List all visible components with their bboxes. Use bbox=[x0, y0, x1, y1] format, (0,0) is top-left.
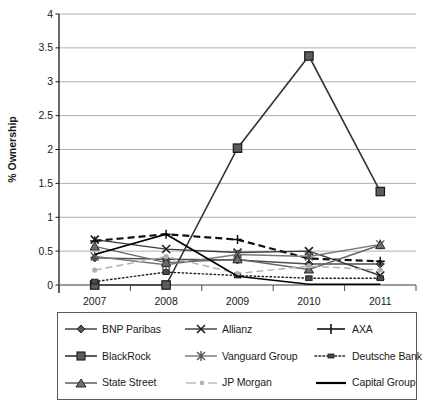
legend-item-vanguard-group[interactable]: Vanguard Group bbox=[184, 350, 314, 362]
y-axis-tick-label: 4 bbox=[47, 8, 53, 20]
legend-label: JP Morgan bbox=[222, 377, 272, 388]
line-chart: 00.511.522.533.5420072008200920102011% O… bbox=[0, 0, 421, 312]
legend-marker-dot-dashed-icon bbox=[184, 377, 218, 389]
legend-marker-triangle-icon bbox=[64, 377, 98, 389]
legend-item-allianz[interactable]: Allianz bbox=[184, 323, 314, 335]
legend-marker-x-icon bbox=[184, 323, 218, 335]
x-axis-tick-label: 2009 bbox=[226, 295, 250, 307]
legend-label: Vanguard Group bbox=[222, 351, 297, 362]
legend-marker-diamond-icon bbox=[64, 323, 98, 335]
legend-item-bnp-paribas[interactable]: BNP Paribas bbox=[64, 323, 184, 335]
y-axis-title: % Ownership bbox=[6, 116, 18, 183]
legend-item-state-street[interactable]: State Street bbox=[64, 377, 184, 389]
y-axis-tick-label: 2.5 bbox=[38, 109, 53, 121]
legend-item-blackrock[interactable]: BlackRock bbox=[64, 350, 184, 362]
x-axis-tick-label: 2007 bbox=[83, 295, 107, 307]
x-axis-tick-label: 2008 bbox=[154, 295, 178, 307]
y-axis-tick-label: 3 bbox=[47, 75, 53, 87]
legend-label: Allianz bbox=[222, 324, 252, 335]
legend-label: Deutsche Bank bbox=[352, 351, 422, 362]
x-axis-tick-label: 2010 bbox=[297, 295, 321, 307]
legend-label: State Street bbox=[102, 377, 156, 388]
legend-item-jp-morgan[interactable]: JP Morgan bbox=[184, 377, 314, 389]
legend-marker-solid-line-icon bbox=[314, 377, 348, 389]
legend-item-capital-group[interactable]: Capital Group bbox=[314, 377, 424, 389]
legend-label: Capital Group bbox=[352, 377, 415, 388]
legend-item-deutsche-bank[interactable]: Deutsche Bank bbox=[314, 350, 424, 362]
y-axis-tick-label: 1 bbox=[47, 211, 53, 223]
legend-marker-square-icon bbox=[64, 350, 98, 362]
legend-label: BlackRock bbox=[102, 351, 151, 362]
y-axis-tick-label: 0.5 bbox=[38, 245, 53, 257]
y-axis-tick-label: 1.5 bbox=[38, 177, 53, 189]
legend-marker-dotted-icon bbox=[314, 350, 348, 362]
y-axis-tick-label: 3.5 bbox=[38, 41, 53, 53]
legend-marker-plus-icon bbox=[314, 323, 348, 335]
y-axis-tick-label: 2 bbox=[47, 143, 53, 155]
legend-marker-asterisk-icon bbox=[184, 350, 218, 362]
legend-item-axa[interactable]: AXA bbox=[314, 323, 424, 335]
legend-label: AXA bbox=[352, 324, 373, 335]
y-axis-tick-label: 0 bbox=[47, 279, 53, 291]
legend-label: BNP Paribas bbox=[102, 324, 161, 335]
chart-legend: BNP Paribas Allianz AXA BlackRock bbox=[57, 312, 417, 400]
x-axis-tick-label: 2011 bbox=[369, 295, 392, 307]
